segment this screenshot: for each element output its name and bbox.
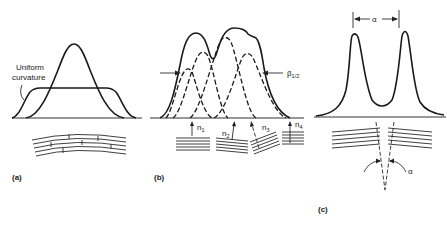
diffraction-figure: Uniform curvature (a) xyxy=(0,0,447,229)
curved-layers xyxy=(32,134,126,156)
panel-a: Uniform curvature (a) xyxy=(12,44,142,182)
uniform-curvature-label-line2: curvature xyxy=(12,73,46,82)
beta-half-label: β1/2 xyxy=(287,69,299,79)
normal-n4-label: n4 xyxy=(295,120,303,130)
domain-4: n4 xyxy=(282,120,304,144)
panel-a-broad-peak xyxy=(12,88,136,118)
panel-c-double-peak xyxy=(316,32,444,117)
domain-3: n3 xyxy=(250,121,280,154)
panel-c-label: (c) xyxy=(318,205,328,214)
sub-peak-3 xyxy=(190,38,256,119)
panel-a-label: (a) xyxy=(12,173,22,182)
layer-stack-left xyxy=(332,128,380,148)
separation-indicator: α xyxy=(353,10,399,28)
panel-b: β1/2 n1 n2 n3 xyxy=(150,28,304,182)
panel-b-label: (b) xyxy=(154,173,165,182)
half-width-indicator: β1/2 xyxy=(160,69,299,79)
layer-stack-right xyxy=(388,128,432,148)
normal-n2-label: n2 xyxy=(222,129,230,139)
domain-2: n2 xyxy=(216,121,248,153)
panel-c: α α (c) xyxy=(314,10,446,214)
uniform-curvature-leader xyxy=(21,85,24,100)
uniform-curvature-label-line1: Uniform xyxy=(16,63,44,72)
normal-n1-label: n1 xyxy=(197,123,205,133)
alpha-angle-label: α xyxy=(408,167,413,176)
alpha-separation-label: α xyxy=(372,15,377,24)
normal-n3-label: n3 xyxy=(262,123,270,133)
domain-1: n1 xyxy=(176,121,210,150)
